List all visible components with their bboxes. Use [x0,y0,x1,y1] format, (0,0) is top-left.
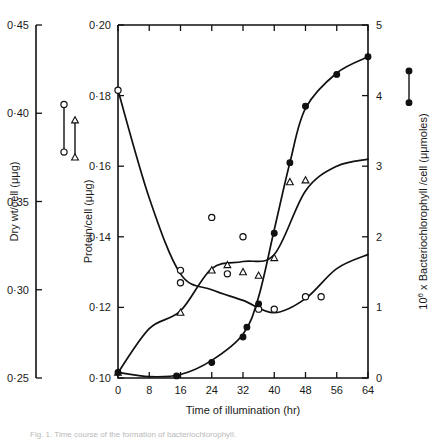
protein-tick-label: 0·16 [89,160,111,172]
data-point-bacteriochlorophyll [271,230,277,236]
data-point-dry-weight [115,87,121,93]
data-point-protein [286,178,293,184]
data-point-bacteriochlorophyll [334,72,340,78]
bcl-tick-label: 5 [376,19,382,31]
data-point-bacteriochlorophyll [244,324,250,330]
data-point-dry-weight [271,306,277,312]
legend-marker-protein [72,154,79,160]
x-tick-label: 24 [206,384,218,396]
data-point-dry-weight [302,294,308,300]
bacteriochlorophyll-time-course-chart: 0·100·120·140·160·180·200123450816243240… [0,0,444,440]
legend-marker-dry-weight [61,101,67,107]
data-point-dry-weight [177,280,183,286]
x-tick-label: 40 [268,384,280,396]
data-point-bacteriochlorophyll [287,160,293,166]
bcl-tick-label: 2 [376,231,382,243]
data-point-bacteriochlorophyll [240,334,246,340]
protein-tick-label: 0·18 [89,90,111,102]
legend-marker-bcl [406,68,412,74]
x-tick-label: 56 [331,384,343,396]
data-point-protein [240,269,247,275]
data-point-dry-weight [318,294,324,300]
legend-marker-bcl [406,100,412,106]
data-point-bacteriochlorophyll [115,369,121,375]
series-curve-protein [118,159,368,373]
dry-weight-tick-label: 0·25 [7,372,29,384]
protein-tick-label: 0·20 [89,19,111,31]
bcl-tick-label: 3 [376,160,382,172]
dry-weight-tick-label: 0·45 [7,19,29,31]
dry-weight-tick-label: 0·30 [7,284,29,296]
curves-layer [118,57,368,377]
data-point-dry-weight [240,234,246,240]
legend-marker-protein [72,117,79,123]
data-point-dry-weight [224,271,230,277]
bcl-tick-label: 1 [376,301,382,313]
x-tick-label: 0 [115,384,121,396]
dry-weight-axis-title: Dry wt/cell (μμg) [8,162,20,242]
x-tick-label: 64 [362,384,374,396]
protein-axis-title: Protein/cell (μμg) [82,180,94,264]
data-point-dry-weight [177,267,183,273]
data-point-bacteriochlorophyll [365,54,371,60]
figure-caption: Fig. 1. Time course of the formation of … [30,430,236,439]
data-point-protein [255,272,262,278]
data-point-bacteriochlorophyll [256,301,262,307]
bcl-tick-label: 0 [376,372,382,384]
bcl-tick-label: 4 [376,90,382,102]
data-point-bacteriochlorophyll [209,360,215,366]
legend-marker-dry-weight [61,149,67,155]
series-curve-dry-weight [118,90,368,312]
x-tick-label: 32 [237,384,249,396]
data-points-layer [115,54,371,379]
x-tick-label: 16 [174,384,186,396]
data-point-protein [302,177,309,183]
protein-tick-label: 0·10 [89,372,111,384]
x-tick-label: 8 [146,384,152,396]
x-axis-title: Time of illumination (hr) [186,404,301,416]
legend-markers-layer [61,68,412,160]
data-point-bacteriochlorophyll [174,373,180,379]
data-point-bacteriochlorophyll [303,103,309,109]
dry-weight-tick-label: 0·40 [7,107,29,119]
bcl-axis-title: 106 x Bacteriochlorophyll /cell (μμmoles… [416,113,429,309]
x-tick-label: 48 [299,384,311,396]
protein-tick-label: 0·12 [89,301,111,313]
figure-container: 0·100·120·140·160·180·200123450816243240… [0,0,444,440]
data-point-dry-weight [209,214,215,220]
